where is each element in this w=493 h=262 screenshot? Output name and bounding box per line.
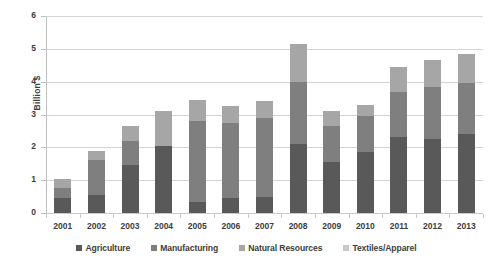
x-tick [416, 214, 417, 218]
legend-item[interactable]: Textiles/Apparel [343, 243, 416, 253]
x-tick [214, 214, 215, 218]
x-tick-label: 2003 [113, 221, 147, 231]
x-tick [80, 214, 81, 218]
x-tick-label: 2004 [147, 221, 181, 231]
bar-segment[interactable] [222, 123, 239, 199]
bar-segment[interactable] [88, 160, 105, 194]
legend-label: Manufacturing [160, 243, 218, 253]
bar-stack[interactable] [256, 16, 273, 213]
bar-stack[interactable] [290, 16, 307, 213]
bar-segment[interactable] [290, 82, 307, 144]
bar-stack[interactable] [390, 16, 407, 213]
bars-container [46, 16, 483, 213]
bar-segment[interactable] [424, 87, 441, 140]
bar-stack[interactable] [155, 16, 172, 213]
bar-segment[interactable] [189, 121, 206, 201]
stacked-bar-chart: Billion $ 0123456 2001200220032004200520… [0, 0, 493, 262]
y-tick-label: 4 [10, 76, 36, 86]
bar-segment[interactable] [323, 126, 340, 162]
bar-segment[interactable] [424, 60, 441, 86]
bar-segment[interactable] [88, 195, 105, 213]
bar-stack[interactable] [323, 16, 340, 213]
bar-segment[interactable] [390, 137, 407, 213]
plot-area [46, 16, 483, 213]
x-tick-label: 2005 [180, 221, 214, 231]
bar-segment[interactable] [155, 111, 172, 145]
bar-segment[interactable] [222, 198, 239, 213]
x-tick [315, 214, 316, 218]
legend-label: Agriculture [85, 243, 130, 253]
bar-segment[interactable] [88, 151, 105, 161]
x-tick-label: 2009 [315, 221, 349, 231]
bar-segment[interactable] [323, 111, 340, 126]
bar-segment[interactable] [54, 179, 71, 189]
legend-label: Natural Resources [248, 243, 322, 253]
legend-swatch-icon [76, 245, 82, 251]
x-tick [281, 214, 282, 218]
bar-segment[interactable] [256, 197, 273, 213]
bar-segment[interactable] [357, 152, 374, 213]
chart-legend: AgricultureManufacturingNatural Resource… [0, 243, 493, 253]
y-tick-label: 0 [10, 207, 36, 217]
bar-segment[interactable] [256, 118, 273, 197]
x-tick-label: 2001 [46, 221, 80, 231]
bar-stack[interactable] [222, 16, 239, 213]
x-tick-label: 2008 [281, 221, 315, 231]
bar-segment[interactable] [323, 162, 340, 213]
bar-segment[interactable] [458, 134, 475, 213]
y-tick-label: 2 [10, 141, 36, 151]
bar-segment[interactable] [222, 106, 239, 122]
x-tick [349, 214, 350, 218]
legend-swatch-icon [343, 245, 349, 251]
bar-segment[interactable] [290, 44, 307, 82]
bar-segment[interactable] [390, 67, 407, 92]
bar-segment[interactable] [390, 92, 407, 138]
bar-segment[interactable] [256, 101, 273, 117]
bar-stack[interactable] [424, 16, 441, 213]
bar-segment[interactable] [290, 144, 307, 213]
bar-segment[interactable] [458, 54, 475, 84]
y-tick-label: 1 [10, 174, 36, 184]
bar-segment[interactable] [122, 126, 139, 141]
bar-segment[interactable] [357, 105, 374, 116]
bar-segment[interactable] [122, 165, 139, 213]
legend-swatch-icon [151, 245, 157, 251]
x-tick-label: 2012 [416, 221, 450, 231]
x-tick-label: 2006 [214, 221, 248, 231]
x-tick [46, 214, 47, 218]
bar-stack[interactable] [357, 16, 374, 213]
bar-segment[interactable] [189, 100, 206, 121]
x-tick [449, 214, 450, 218]
x-tick-label: 2010 [349, 221, 383, 231]
bar-segment[interactable] [54, 198, 71, 213]
x-tick [248, 214, 249, 218]
bar-segment[interactable] [458, 83, 475, 134]
bar-stack[interactable] [122, 16, 139, 213]
x-tick-label: 2011 [382, 221, 416, 231]
x-tick [147, 214, 148, 218]
bar-segment[interactable] [54, 188, 71, 198]
bar-segment[interactable] [189, 202, 206, 213]
bar-segment[interactable] [357, 116, 374, 152]
x-tick [483, 214, 484, 218]
legend-item[interactable]: Agriculture [76, 243, 130, 253]
x-tick-label: 2007 [248, 221, 282, 231]
y-tick-label: 3 [10, 109, 36, 119]
x-tick [180, 214, 181, 218]
legend-swatch-icon [239, 245, 245, 251]
bar-segment[interactable] [155, 146, 172, 213]
x-tick-label: 2013 [449, 221, 483, 231]
y-tick-label: 6 [10, 10, 36, 20]
legend-item[interactable]: Manufacturing [151, 243, 218, 253]
bar-segment[interactable] [122, 141, 139, 166]
legend-item[interactable]: Natural Resources [239, 243, 322, 253]
bar-stack[interactable] [189, 16, 206, 213]
gridline [46, 213, 483, 214]
bar-stack[interactable] [458, 16, 475, 213]
bar-stack[interactable] [88, 16, 105, 213]
x-tick-label: 2002 [80, 221, 114, 231]
bar-segment[interactable] [424, 139, 441, 213]
y-tick-label: 5 [10, 43, 36, 53]
bar-stack[interactable] [54, 16, 71, 213]
legend-label: Textiles/Apparel [352, 243, 416, 253]
